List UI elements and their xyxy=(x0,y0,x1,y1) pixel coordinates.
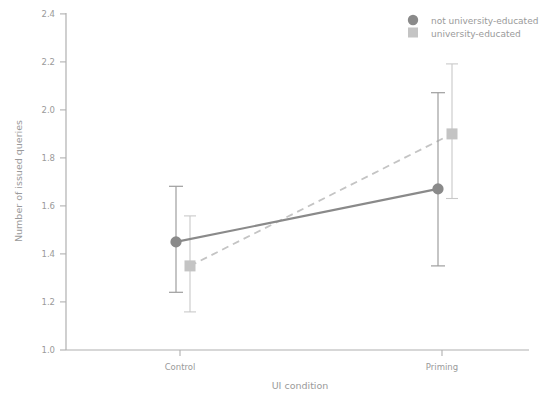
x-tick-label-control: Control xyxy=(165,362,196,372)
x-tick-label-priming: Priming xyxy=(426,362,458,372)
y-tick-label: 2.2 xyxy=(41,57,55,67)
legend-label-university-educated: university-educated xyxy=(431,29,521,39)
y-tick-label: 1.4 xyxy=(41,249,55,259)
y-tick-label: 1.8 xyxy=(41,153,55,163)
x-axis-title: UI condition xyxy=(272,380,329,391)
data-point-circle-control xyxy=(170,236,181,247)
interaction-plot-svg: 1.0 1.2 1.4 1.6 1.8 2.0 2.2 2.4 Control … xyxy=(0,0,541,394)
data-point-circle-priming xyxy=(432,183,443,194)
legend-circle-marker-icon xyxy=(408,15,418,25)
figure-background xyxy=(0,0,541,394)
y-tick-label: 2.4 xyxy=(41,9,55,19)
data-point-square-priming xyxy=(447,128,458,139)
y-tick-label: 1.0 xyxy=(41,345,55,355)
chart-figure: 1.0 1.2 1.4 1.6 1.8 2.0 2.2 2.4 Control … xyxy=(0,0,541,394)
y-tick-label: 2.0 xyxy=(41,105,55,115)
legend-label-not-university-educated: not university-educated xyxy=(431,16,538,26)
y-axis-title: Number of issued queries xyxy=(13,120,24,242)
data-point-square-control xyxy=(185,260,196,271)
y-tick-label: 1.6 xyxy=(41,201,55,211)
y-tick-label: 1.2 xyxy=(41,297,55,307)
legend-square-marker-icon xyxy=(408,28,418,38)
